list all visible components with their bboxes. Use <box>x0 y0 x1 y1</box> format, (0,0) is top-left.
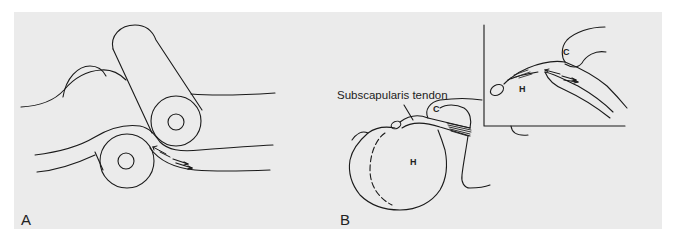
panel-a-label: A <box>21 211 31 228</box>
inset-humerus-label: H <box>519 84 526 94</box>
subscapularis-tendon-label: Subscapularis tendon <box>337 89 448 101</box>
panel-a-roller-diagram <box>21 25 275 188</box>
panel-b-shoulder-diagram <box>349 25 627 210</box>
humerus-label: H <box>410 157 417 167</box>
coracoid-label: C <box>433 104 440 114</box>
panel-b-label: B <box>340 211 350 228</box>
figure-illustration <box>0 0 677 238</box>
inset-coracoid-label: C <box>563 47 570 57</box>
